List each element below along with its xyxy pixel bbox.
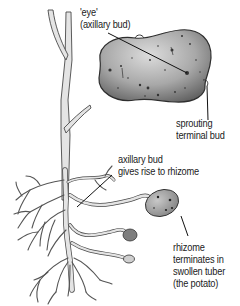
label-axillary-rhizome-line-1: axillary bud bbox=[118, 153, 199, 165]
label-terminal-bud-line-1: sprouting bbox=[176, 117, 225, 129]
tuber-leader-line bbox=[181, 216, 188, 236]
label-axillary-rhizome-line-2: gives rise to rhizome bbox=[118, 165, 199, 177]
label-axillary-rhizome: axillary bud gives rise to rhizome bbox=[118, 153, 199, 177]
label-tuber-line-1: rhizome bbox=[173, 241, 225, 253]
label-eye-line-2: (axillary bud) bbox=[80, 18, 130, 30]
tuber-middle bbox=[123, 229, 137, 241]
tuber-lower bbox=[124, 255, 135, 263]
label-terminal-bud: sprouting terminal bud bbox=[176, 117, 225, 141]
label-tuber-line-3: swollen tuber bbox=[173, 265, 225, 277]
terminal-bud-leader-line bbox=[207, 86, 208, 120]
label-terminal-bud-line-2: terminal bud bbox=[176, 129, 225, 141]
label-tuber-line-4: (the potato) bbox=[173, 277, 225, 289]
label-eye: 'eye' (axillary bud) bbox=[80, 6, 130, 30]
large-tuber bbox=[99, 30, 211, 102]
label-tuber-line-2: terminates in bbox=[173, 253, 225, 265]
stem bbox=[48, 10, 91, 200]
label-tuber: rhizome terminates in swollen tuber (the… bbox=[173, 241, 225, 289]
tuber-right bbox=[142, 185, 183, 221]
label-eye-line-1: 'eye' bbox=[80, 6, 130, 18]
